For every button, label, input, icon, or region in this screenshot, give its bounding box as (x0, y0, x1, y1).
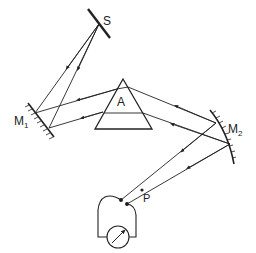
galvanometer (107, 226, 129, 248)
spectrometer-diagram: S M1 A (0, 0, 256, 253)
mirror2-label: M2 (228, 122, 243, 138)
rays-source-to-m1 (35, 24, 99, 128)
rays-m2-to-p (121, 123, 230, 204)
rays-m1-to-prism (35, 89, 117, 128)
prism-label: A (117, 95, 125, 109)
mirror-m2 (210, 110, 236, 164)
source-label: S (103, 14, 111, 28)
point-p-label: P (143, 192, 150, 204)
mirror1-label: M1 (14, 114, 29, 130)
